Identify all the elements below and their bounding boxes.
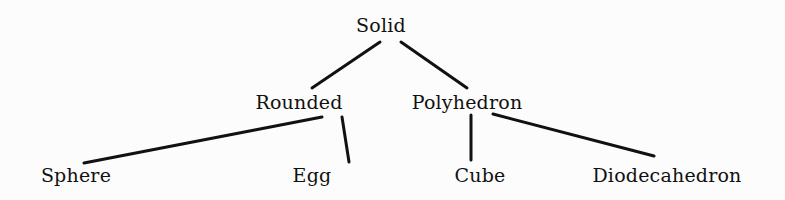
node-polyhedron: Polyhedron bbox=[412, 93, 523, 112]
edge-solid-polyhedron bbox=[401, 42, 467, 88]
edge-rounded-sphere bbox=[84, 117, 322, 163]
edge-rounded-egg bbox=[342, 117, 349, 162]
node-rounded: Rounded bbox=[255, 93, 342, 112]
tree-diagram: Solid Rounded Polyhedron Sphere Egg Cube… bbox=[0, 0, 785, 200]
edge-polyhedron-diodecahedron bbox=[493, 114, 654, 156]
node-egg: Egg bbox=[293, 166, 332, 185]
node-cube: Cube bbox=[455, 166, 506, 185]
node-solid: Solid bbox=[356, 16, 406, 35]
edge-solid-rounded bbox=[312, 42, 380, 88]
node-diodecahedron: Diodecahedron bbox=[592, 166, 741, 185]
node-sphere: Sphere bbox=[41, 166, 111, 185]
